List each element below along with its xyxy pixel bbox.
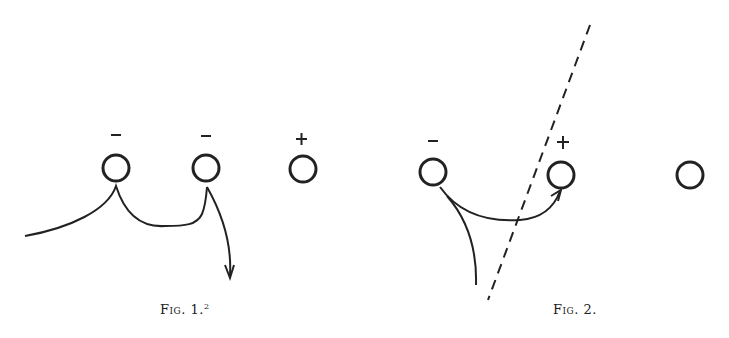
caption-text: Fig. 2. [553, 302, 597, 317]
figure-2-caption: Fig. 2. [553, 302, 597, 317]
atom-1-2 [193, 155, 219, 181]
charge-signs [111, 133, 569, 149]
electron-path-2 [440, 187, 560, 220]
atom-2-2 [548, 162, 574, 188]
electron-path-1 [25, 186, 207, 236]
dashed-boundary-line [488, 25, 590, 300]
atom-1-1 [103, 155, 129, 181]
figure-1-caption: Fig. 1.2 [160, 302, 210, 317]
caption-text: Fig. 1. [160, 302, 204, 317]
figure-2 [420, 25, 703, 300]
figure-1 [25, 155, 316, 278]
footnote-marker: 2 [204, 302, 210, 311]
atom-2-3 [677, 162, 703, 188]
atom-1-3 [290, 156, 316, 182]
diagram-canvas [0, 0, 729, 338]
electron-path-1b [207, 187, 230, 275]
atom-2-1 [420, 159, 446, 185]
electron-path-2b [447, 196, 476, 285]
